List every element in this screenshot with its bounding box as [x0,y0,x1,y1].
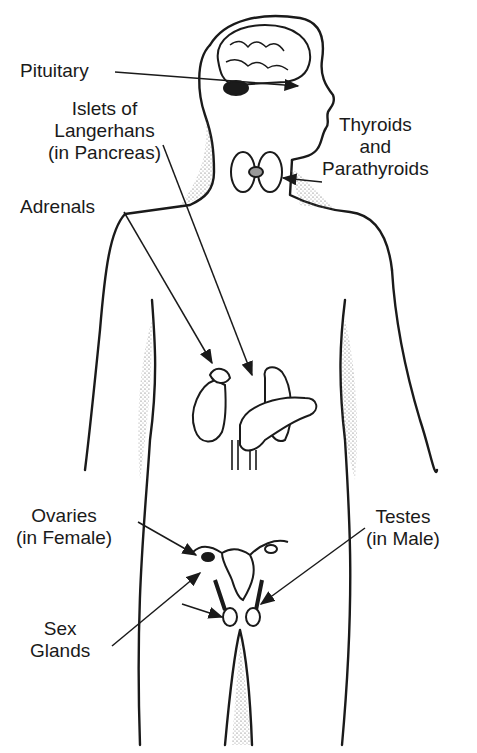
reproductive-organs-icon [193,541,288,626]
label-sex-glands: Sex Glands [30,618,90,662]
label-thyroids-parathyroids: Thyroids and Parathyroids [322,114,429,180]
label-ovaries: Ovaries (in Female) [16,505,112,549]
label-testes: Testes (in Male) [366,506,440,550]
brain-icon [218,25,310,95]
kidney-adrenal-pancreas-icon [193,367,316,470]
label-adrenals: Adrenals [20,196,95,218]
label-islets-of-langerhans: Islets of Langerhans (in Pancreas) [48,98,161,164]
thyroid-icon [231,152,282,192]
label-pituitary: Pituitary [20,60,89,82]
